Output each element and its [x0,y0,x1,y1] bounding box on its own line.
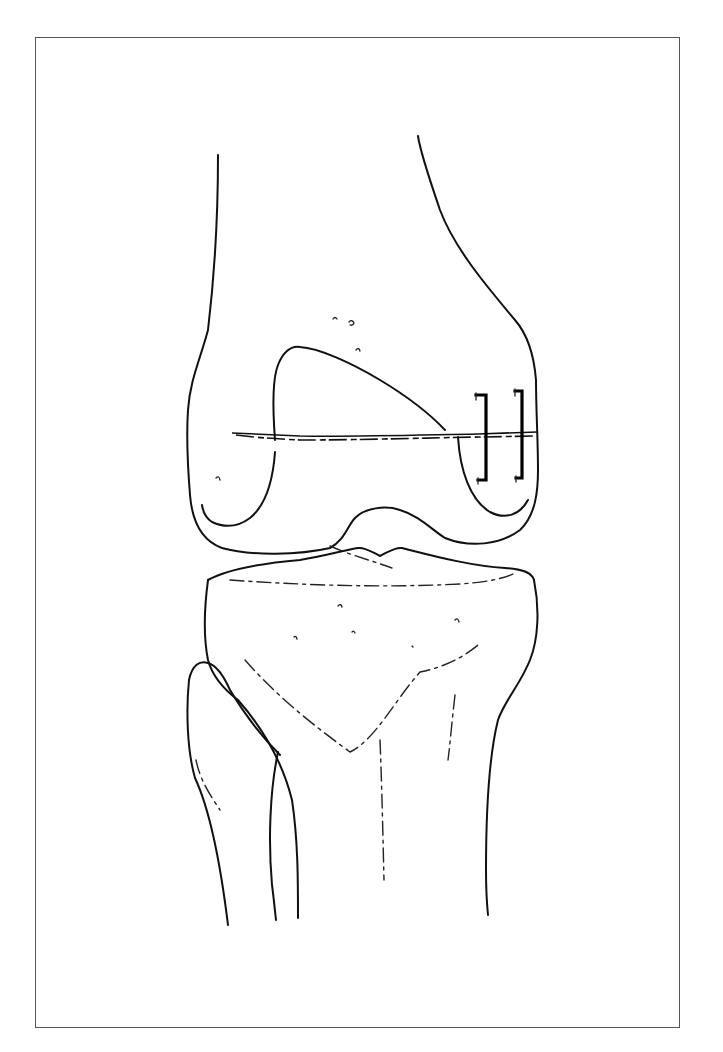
femur [187,136,538,568]
tibia [205,548,537,918]
fibula [187,662,280,925]
staple-left [476,393,486,484]
knee-illustration [0,0,723,1052]
fracture-line [232,432,537,440]
